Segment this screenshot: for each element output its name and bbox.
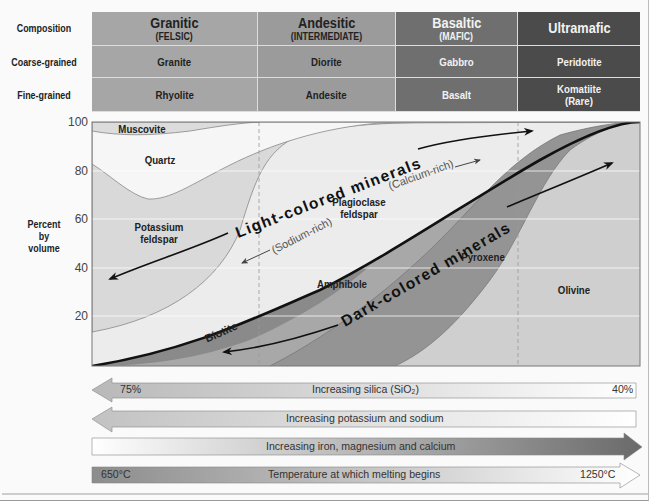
label-olivine: Olivine	[558, 284, 590, 296]
label-quartz: Quartz	[145, 154, 176, 166]
iron-magnesium-calcium-label: Increasing iron, magnesium and calcium	[266, 440, 455, 452]
silica-right-value: 40%	[612, 383, 633, 395]
potassium-sodium-label: Increasing potassium and sodium	[286, 412, 444, 424]
mineral-composition-chart: Muscovite Quartz Potassium feldspar Plag…	[0, 0, 656, 504]
silica-left-value: 75%	[120, 383, 141, 395]
melting-label: Temperature at which melting begins	[268, 468, 440, 480]
label-potassium-feldspar-2: feldspar	[140, 233, 178, 245]
label-muscovite: Muscovite	[118, 123, 166, 135]
label-potassium-feldspar-1: Potassium	[135, 221, 184, 233]
melting-left-value: 650°C	[101, 468, 131, 480]
silica-label: Increasing silica (SiO₂)	[312, 383, 419, 395]
label-plagioclase-2: feldspar	[340, 208, 378, 220]
melting-right-value: 1250°C	[580, 468, 615, 480]
label-amphibole: Amphibole	[317, 278, 367, 290]
